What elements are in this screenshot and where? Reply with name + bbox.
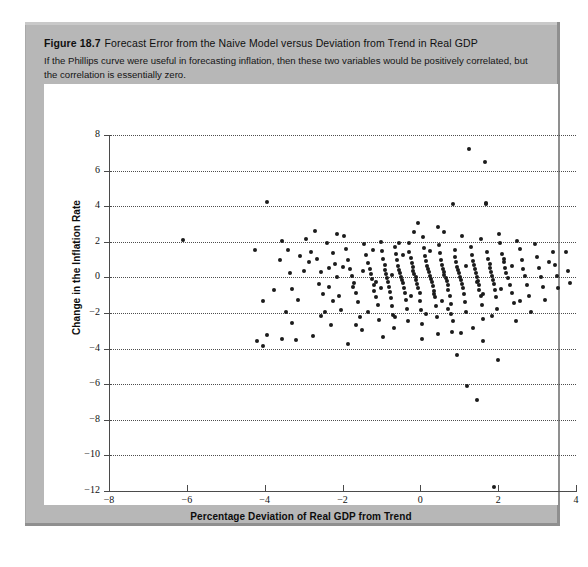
scatter-point [477,288,481,292]
gridline-y [110,384,576,385]
scatter-point [440,263,444,267]
scatter-point [512,301,516,305]
scatter-point [253,248,257,252]
scatter-point [521,267,525,271]
scatter-point [533,242,537,246]
scatter-point [376,303,380,307]
scatter-point [471,326,475,330]
scatter-point [329,323,333,327]
scatter-point [415,282,419,286]
gridline-y [110,135,576,136]
scatter-point [327,285,331,289]
x-axis-tick [420,485,421,492]
y-axis-label-holder: 6 [66,164,100,176]
scatter-point [424,312,428,316]
scatter-point [351,285,355,289]
y-axis-label: 6 [74,164,100,175]
y-axis-label-holder: −6 [66,377,100,389]
scatter-point [510,291,514,295]
scatter-point [286,248,290,252]
scatter-point [405,307,409,311]
scatter-point [568,281,572,285]
scatter-point [504,271,508,275]
scatter-point [261,344,265,348]
scatter-point [407,250,411,254]
scatter-point [402,286,406,290]
scatter-point [379,286,383,290]
y-axis-tick [104,171,110,172]
scatter-point [380,249,384,253]
y-axis-tick [104,313,110,314]
y-axis-tick [104,420,110,421]
scatter-point [467,147,471,151]
scatter-point [390,273,394,277]
y-axis-label-holder: 0 [66,270,100,282]
figure-title: Figure 18.7Forecast Error from the Naive… [44,36,542,51]
scatter-point [510,264,514,268]
scatter-point [381,335,385,339]
scatter-point [298,254,302,258]
y-axis-tick [104,206,110,207]
scatter-point [377,318,381,322]
scatter-point [418,299,422,303]
scatter-point [481,339,485,343]
x-axis-label: −8 [94,494,124,505]
scatter-point [463,300,467,304]
scatter-point [436,225,440,229]
scatter-point [261,299,265,303]
scatter-point [372,289,376,293]
scatter-point [348,267,352,271]
scatter-point [475,398,479,402]
scatter-point [181,238,185,242]
scatter-point [434,304,438,308]
gridline-y [110,206,576,207]
scatter-point [335,232,339,236]
gridline-y [110,349,576,350]
scatter-point [366,261,370,265]
x-axis-tick [343,485,344,492]
scatter-point [515,239,519,243]
scatter-point [307,260,311,264]
panel-bottom-shadow [25,523,560,526]
scatter-point [499,287,503,291]
scatter-point [541,285,545,289]
scatter-point [374,280,378,284]
scatter-point [439,258,443,262]
scatter-point [362,242,366,246]
x-axis-tick [187,485,188,492]
scatter-point [419,308,423,312]
scatter-point [386,280,390,284]
scatter-point [566,269,570,273]
y-axis-title: Change in the Inflation Rate [71,118,82,418]
scatter-point [421,235,425,239]
scatter-point [396,264,400,268]
scatter-point [492,485,496,489]
scatter-point [488,262,492,266]
scatter-point [302,269,306,273]
plot-card: Percentage Deviation of Real GDP from Tr… [44,84,558,505]
scatter-point [344,247,348,251]
scatter-point [455,353,459,357]
y-axis-tick [104,242,110,243]
scatter-point [420,337,424,341]
x-axis-label: 4 [561,494,588,505]
scatter-point [394,252,398,256]
y-axis-label: 8 [74,128,100,139]
scatter-point [390,304,394,308]
scatter-point [412,230,416,234]
scatter-point [265,333,269,337]
scatter-point [288,271,292,275]
y-axis-tick [104,135,110,136]
scatter-point [360,328,364,332]
y-axis-label-holder: 4 [66,199,100,211]
scatter-point [492,282,496,286]
scatter-point [551,250,555,254]
scatter-point [313,229,317,233]
scatter-point [337,294,341,298]
scatter-point [440,299,444,303]
scatter-point [453,248,457,252]
x-axis-tick [576,485,577,492]
scatter-point [451,319,455,323]
scatter-point [401,281,405,285]
scatter-point [422,246,426,250]
